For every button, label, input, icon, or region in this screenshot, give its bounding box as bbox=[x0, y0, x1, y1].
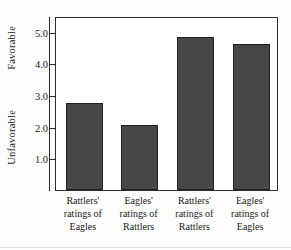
y-tick-label: 5.0 bbox=[22, 27, 48, 38]
x-tick-label-line: Eagles bbox=[55, 220, 111, 233]
x-tick-label-line: ratings of bbox=[167, 207, 223, 220]
bar bbox=[121, 125, 158, 190]
x-tick-label: Eagles'ratings ofEagles bbox=[222, 194, 278, 233]
bars-layer bbox=[56, 18, 277, 190]
x-tick-label-line: Eagles' bbox=[111, 194, 167, 207]
x-tick-label-line: Rattlers bbox=[111, 220, 167, 233]
scan-artifact-line bbox=[0, 247, 291, 248]
plot-area bbox=[55, 17, 278, 191]
bar bbox=[66, 103, 103, 190]
x-tick-label-line: Rattlers' bbox=[55, 194, 111, 207]
bar-chart-figure: Favorable Unfavorable 5.04.03.02.01.0 Ra… bbox=[0, 0, 291, 250]
x-tick-label-line: Eagles' bbox=[222, 194, 278, 207]
x-tick-label: Rattlers'ratings ofEagles bbox=[55, 194, 111, 233]
y-tick-label: 1.0 bbox=[22, 154, 48, 165]
y-tick-label: 2.0 bbox=[22, 122, 48, 133]
y-axis-tick-labels: 5.04.03.02.01.0 bbox=[22, 0, 48, 250]
x-tick-label: Eagles'ratings ofRattlers bbox=[111, 194, 167, 233]
x-axis-tick-labels: Rattlers'ratings ofEaglesEagles'ratings … bbox=[55, 194, 278, 242]
axis-endpoint-label-favorable: Favorable bbox=[6, 26, 17, 70]
x-tick-label-line: ratings of bbox=[55, 207, 111, 220]
x-tick-label-line: ratings of bbox=[111, 207, 167, 220]
x-tick-label-line: Rattlers bbox=[167, 220, 223, 233]
x-tick-label-line: ratings of bbox=[222, 207, 278, 220]
y-axis-spine bbox=[49, 17, 50, 191]
bar bbox=[177, 37, 214, 190]
bar bbox=[233, 44, 270, 190]
y-tick-label: 4.0 bbox=[22, 59, 48, 70]
x-tick-label-line: Rattlers' bbox=[167, 194, 223, 207]
axis-endpoint-label-unfavorable: Unfavorable bbox=[6, 110, 17, 165]
x-tick-label-line: Eagles bbox=[222, 220, 278, 233]
y-tick-label: 3.0 bbox=[22, 91, 48, 102]
x-tick-label: Rattlers'ratings ofRattlers bbox=[167, 194, 223, 233]
